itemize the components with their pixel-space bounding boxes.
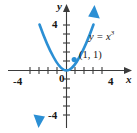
origin-label: 0: [59, 73, 65, 84]
point-annotation: (1, 1): [79, 50, 102, 61]
y-axis-label: y: [57, 1, 62, 12]
y-tick-label-pos4: 4: [52, 19, 58, 30]
cubic-function-graph-figure: y x 0 -4 4 4 -4 y = x3 (1, 1): [0, 0, 137, 133]
equation-exponent: 3: [111, 29, 115, 37]
y-tick-label-neg4: -4: [48, 110, 57, 121]
curve-arrow-upper: [88, 5, 100, 19]
equation-text: y = x: [89, 31, 111, 42]
point-marker-1-1: [72, 57, 77, 62]
x-tick-label-neg4: -4: [13, 76, 22, 87]
equation-annotation: y = x3: [89, 30, 114, 42]
y-axis: [63, 4, 70, 128]
curve-arrow-lower: [34, 115, 46, 129]
graph-canvas: [0, 0, 137, 133]
x-axis-label: x: [126, 74, 132, 85]
x-tick-label-pos4: 4: [108, 76, 114, 87]
